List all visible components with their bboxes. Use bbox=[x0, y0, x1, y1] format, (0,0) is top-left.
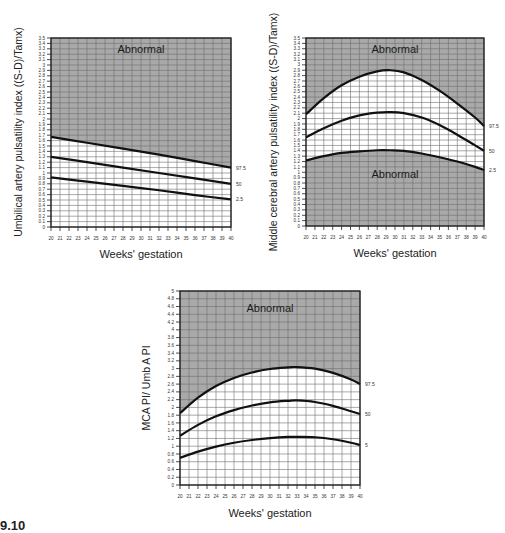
y-tick-label: 0.1 bbox=[39, 219, 46, 224]
x-tick-label: 24 bbox=[339, 235, 345, 240]
y-tick-label: 2.6 bbox=[294, 84, 301, 89]
y-tick-label: 0.2 bbox=[294, 213, 301, 218]
percentile-label: 97.5 bbox=[365, 381, 375, 387]
x-tick-label: 35 bbox=[437, 235, 443, 240]
y-tick-label: 1.3 bbox=[39, 154, 46, 159]
y-tick-label: 0.4 bbox=[168, 467, 175, 472]
x-tick-label: 27 bbox=[111, 236, 117, 241]
x-tick-label: 25 bbox=[348, 235, 354, 240]
x-tick-label: 34 bbox=[174, 236, 180, 241]
x-tick-label: 34 bbox=[303, 494, 309, 499]
y-tick-label: 2.7 bbox=[39, 79, 46, 84]
y-tick-label: 0.4 bbox=[39, 203, 46, 208]
x-tick-label: 27 bbox=[240, 494, 246, 499]
chart-ratio: 97.550500.20.40.60.811.21.41.61.822.22.4… bbox=[140, 289, 375, 519]
y-tick-label: 2 bbox=[42, 117, 45, 122]
percentile-label: 50 bbox=[365, 411, 371, 417]
x-tick-label: 39 bbox=[348, 494, 354, 499]
x-tick-label: 21 bbox=[186, 494, 192, 499]
y-tick-label: 3.3 bbox=[294, 46, 301, 51]
percentile-label: 50 bbox=[236, 181, 242, 187]
y-tick-label: 0.5 bbox=[39, 198, 46, 203]
grid bbox=[180, 291, 360, 485]
y-tick-label: 3.6 bbox=[168, 343, 175, 348]
y-tick-label: 1.7 bbox=[294, 132, 301, 137]
x-tick-label: 32 bbox=[156, 236, 162, 241]
x-tick-label: 28 bbox=[375, 235, 381, 240]
x-tick-label: 40 bbox=[481, 235, 487, 240]
y-tick-label: 1 bbox=[42, 171, 45, 176]
y-tick-label: 1.7 bbox=[39, 133, 46, 138]
y-tick-label: 2 bbox=[171, 405, 174, 410]
y-tick-label: 5 bbox=[171, 289, 174, 294]
y-tick-label: 1.8 bbox=[168, 413, 175, 418]
chart-mca: 97.5502.500.10.20.30.40.50.60.70.80.911.… bbox=[267, 13, 499, 259]
y-tick-label: 0.2 bbox=[168, 475, 175, 480]
y-tick-label: 0.4 bbox=[294, 202, 301, 207]
x-tick-label: 37 bbox=[201, 236, 207, 241]
y-tick-label: 1.4 bbox=[39, 149, 46, 154]
y-tick-label: 2.2 bbox=[168, 397, 175, 402]
x-tick-label: 31 bbox=[147, 236, 153, 241]
y-tick-label: 1.5 bbox=[39, 144, 46, 149]
y-tick-label: 0.2 bbox=[39, 214, 46, 219]
y-tick-label: 2.5 bbox=[39, 90, 46, 95]
x-tick-label: 28 bbox=[120, 236, 126, 241]
y-tick-label: 4.6 bbox=[168, 304, 175, 309]
x-tick-label: 36 bbox=[192, 236, 198, 241]
x-tick-label: 23 bbox=[75, 236, 81, 241]
y-tick-label: 0.3 bbox=[294, 207, 301, 212]
x-tick-label: 31 bbox=[276, 494, 282, 499]
y-tick-label: 2.3 bbox=[39, 100, 46, 105]
y-tick-label: 3 bbox=[42, 63, 45, 68]
y-tick-label: 0 bbox=[297, 224, 300, 229]
x-tick-label: 29 bbox=[384, 235, 390, 240]
x-tick-label: 32 bbox=[410, 235, 416, 240]
y-tick-label: 0.1 bbox=[294, 218, 301, 223]
y-tick-label: 0.6 bbox=[294, 191, 301, 196]
x-tick-label: 27 bbox=[366, 235, 372, 240]
x-axis-title: Weeks' gestation bbox=[99, 248, 182, 260]
y-tick-label: 4.8 bbox=[168, 296, 175, 301]
y-tick-label: 0.6 bbox=[39, 192, 46, 197]
y-tick-label: 2.6 bbox=[168, 382, 175, 387]
x-tick-label: 30 bbox=[138, 236, 144, 241]
y-tick-label: 2.4 bbox=[168, 389, 175, 394]
abnormal-annotation: Abnormal bbox=[371, 168, 418, 180]
y-tick-label: 0.6 bbox=[168, 459, 175, 464]
y-tick-label: 2.2 bbox=[39, 106, 46, 111]
y-tick-label: 1.4 bbox=[294, 148, 301, 153]
y-tick-label: 1.1 bbox=[294, 165, 301, 170]
y-tick-label: 4.4 bbox=[168, 312, 175, 317]
abnormal-annotation: Abnormal bbox=[117, 43, 164, 55]
grid bbox=[51, 38, 231, 227]
y-tick-label: 3.2 bbox=[294, 52, 301, 57]
y-tick-label: 2 bbox=[297, 116, 300, 121]
y-tick-label: 1.2 bbox=[168, 436, 175, 441]
x-tick-label: 30 bbox=[267, 494, 273, 499]
x-tick-label: 26 bbox=[102, 236, 108, 241]
chart-umbilical: 97.5502.500.10.20.30.40.50.60.70.80.911.… bbox=[12, 27, 246, 260]
y-tick-label: 3 bbox=[171, 366, 174, 371]
x-tick-label: 38 bbox=[464, 235, 470, 240]
y-tick-label: 3.4 bbox=[168, 351, 175, 356]
x-tick-label: 38 bbox=[210, 236, 216, 241]
x-tick-label: 40 bbox=[228, 236, 234, 241]
x-tick-label: 26 bbox=[357, 235, 363, 240]
x-axis-title: Weeks' gestation bbox=[228, 507, 311, 519]
percentile-label: 50 bbox=[489, 148, 495, 154]
x-tick-label: 36 bbox=[321, 494, 327, 499]
x-axis: 2021222324252627282930313233343536373839… bbox=[177, 485, 363, 499]
figure-caption: 9.10 bbox=[0, 518, 25, 533]
x-tick-label: 25 bbox=[222, 494, 228, 499]
x-tick-label: 38 bbox=[339, 494, 345, 499]
y-tick-label: 2.2 bbox=[294, 105, 301, 110]
y-tick-label: 2.5 bbox=[294, 89, 301, 94]
y-tick-label: 4 bbox=[171, 327, 174, 332]
y-tick-label: 0.9 bbox=[294, 175, 301, 180]
x-tick-label: 22 bbox=[195, 494, 201, 499]
x-tick-label: 20 bbox=[303, 235, 309, 240]
y-tick-label: 0.7 bbox=[39, 187, 46, 192]
grid bbox=[306, 38, 484, 226]
